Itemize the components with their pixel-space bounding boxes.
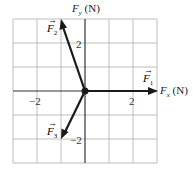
tick-y-neg: −2 — [70, 135, 82, 146]
vector-arrow-icon: → — [144, 66, 153, 75]
label-f2: →F2 — [47, 23, 57, 37]
y-axis-label: Fy (N) — [72, 3, 100, 17]
tick-y-pos: 2 — [76, 39, 82, 50]
label-f1: →F1 — [143, 73, 153, 87]
vector-f3 — [65, 91, 85, 132]
label-f3: →F3 — [47, 126, 57, 140]
vector-arrow-icon: → — [48, 16, 57, 25]
x-axis-label: Fx (N) — [160, 85, 188, 99]
tick-x-neg: −2 — [29, 96, 41, 107]
tick-x-pos: 2 — [129, 96, 135, 107]
vector-f2 — [63, 27, 85, 91]
origin-point — [82, 88, 89, 95]
vector-arrow-icon: → — [48, 119, 57, 128]
